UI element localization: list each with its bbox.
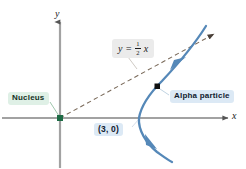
y-axis-label: y xyxy=(55,8,59,19)
one-half-fraction: 1 2 xyxy=(135,41,140,56)
fraction-denominator: 2 xyxy=(135,50,140,57)
fraction-numerator: 1 xyxy=(135,41,140,48)
nucleus-label: Nucleus xyxy=(8,92,49,105)
alpha-particle-trajectory-figure: y x Nucleus Alpha particle (3, 0) y = 1 … xyxy=(0,0,246,169)
diagram-canvas xyxy=(0,0,246,169)
equation-leader-line xyxy=(128,57,137,69)
equation-variable: x xyxy=(144,43,149,54)
trajectory-arrow-upper xyxy=(170,57,186,70)
alpha-particle-label: Alpha particle xyxy=(170,90,234,103)
nucleus-dot xyxy=(57,115,63,121)
alpha-leader-line xyxy=(160,89,169,95)
alpha-particle-dot xyxy=(155,84,161,90)
equation-left-side: y = xyxy=(118,43,132,54)
trajectory-arrow-lower xyxy=(145,134,157,149)
vertex-coordinate-label: (3, 0) xyxy=(94,123,123,136)
x-axis-label: x xyxy=(232,110,236,121)
nucleus-leader-line xyxy=(50,102,59,116)
asymptote-equation-label: y = 1 2 x xyxy=(112,39,154,58)
